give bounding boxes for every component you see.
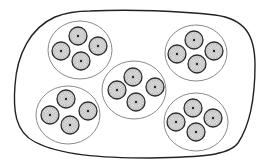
unit-core-dot xyxy=(192,107,194,109)
unit-circle xyxy=(205,42,223,60)
unit-core-dot xyxy=(77,35,79,37)
unit-circle xyxy=(57,90,75,108)
group-center xyxy=(102,61,166,119)
unit-core-dot xyxy=(154,86,156,88)
unit-core-dot xyxy=(87,110,89,112)
unit-core-dot xyxy=(193,39,195,41)
unit-core-dot xyxy=(65,98,67,100)
unit-circle xyxy=(185,31,203,49)
unit-core-dot xyxy=(69,124,71,126)
unit-circle xyxy=(41,106,59,124)
unit-core-dot xyxy=(97,45,99,47)
unit-circle xyxy=(188,55,206,73)
unit-core-dot xyxy=(60,50,62,52)
unit-circle xyxy=(168,45,186,63)
unit-core-dot xyxy=(195,131,197,133)
group-bottom-right xyxy=(164,93,228,151)
unit-circle xyxy=(89,37,107,55)
unit-core-dot xyxy=(132,76,134,78)
unit-circle xyxy=(79,102,97,120)
unit-circle xyxy=(52,42,70,60)
unit-core-dot xyxy=(116,89,118,91)
unit-circle xyxy=(61,116,79,134)
unit-circle xyxy=(187,123,205,141)
unit-core-dot xyxy=(49,114,51,116)
group-top-right xyxy=(165,25,227,81)
unit-core-dot xyxy=(135,101,137,103)
unit-core-dot xyxy=(212,117,214,119)
unit-core-dot xyxy=(80,60,82,62)
cluster-diagram xyxy=(0,0,267,164)
unit-circle xyxy=(146,78,164,96)
unit-circle xyxy=(204,109,222,127)
unit-circle xyxy=(124,68,142,86)
group-top-left xyxy=(48,21,112,79)
unit-circle xyxy=(127,93,145,111)
unit-circle xyxy=(69,27,87,45)
unit-circle xyxy=(108,81,126,99)
diagram-canvas xyxy=(0,0,267,164)
unit-core-dot xyxy=(213,50,215,52)
unit-core-dot xyxy=(176,53,178,55)
unit-core-dot xyxy=(196,63,198,65)
group-bottom-left xyxy=(36,86,100,144)
unit-core-dot xyxy=(175,121,177,123)
unit-circle xyxy=(167,113,185,131)
groups-layer xyxy=(36,21,228,151)
unit-circle xyxy=(72,52,90,70)
unit-circle xyxy=(184,99,202,117)
